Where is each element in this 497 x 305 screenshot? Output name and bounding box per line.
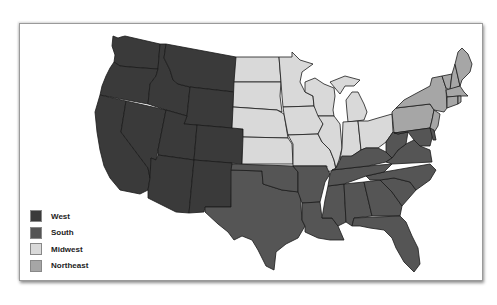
state-connecticut <box>447 96 458 108</box>
state-new-mexico <box>189 160 232 213</box>
state-arizona <box>148 155 194 213</box>
legend: West South Midwest Northeast <box>30 208 88 274</box>
legend-item-south: South <box>30 225 88 242</box>
swatch-midwest <box>30 243 42 255</box>
state-wyoming <box>184 87 234 128</box>
legend-label: West <box>51 212 70 221</box>
state-colorado <box>194 125 243 164</box>
swatch-south <box>30 227 42 239</box>
legend-item-northeast: Northeast <box>30 258 88 275</box>
state-minnesota <box>279 52 314 107</box>
legend-label: Northeast <box>51 261 88 270</box>
legend-item-west: West <box>30 208 88 225</box>
legend-label: Midwest <box>51 245 83 254</box>
swatch-west <box>30 210 42 222</box>
swatch-northeast <box>30 260 42 272</box>
legend-item-midwest: Midwest <box>30 241 88 258</box>
state-rhode-island <box>458 96 461 104</box>
legend-label: South <box>51 228 74 237</box>
state-michigan <box>330 76 367 122</box>
state-florida <box>352 216 420 272</box>
state-north-dakota <box>234 57 281 82</box>
state-kansas <box>242 137 293 164</box>
region-west <box>95 36 243 213</box>
state-washington <box>112 36 160 69</box>
region-northeast <box>392 48 472 134</box>
